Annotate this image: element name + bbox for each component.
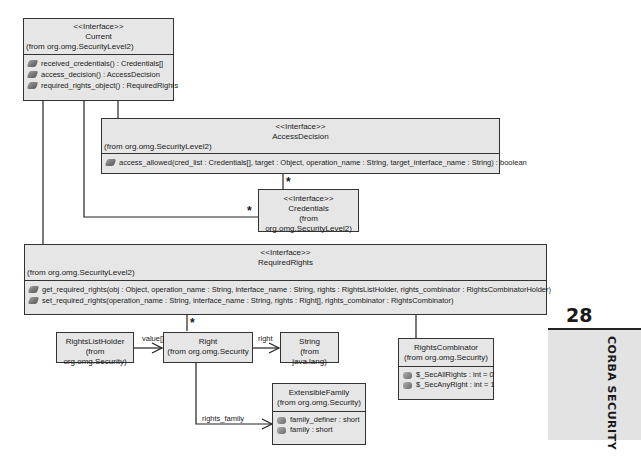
methods-compartment: access_allowed(cred_list : Credentials[]… [102, 153, 499, 171]
class-header: <<Interface>> AccessDecision (from org.o… [102, 119, 499, 153]
stereotype: <<Interface>> [261, 194, 356, 204]
attribute-row: $_SecAllRights : int = 0 [403, 370, 489, 380]
method-icon [28, 297, 40, 304]
class-credentials[interactable]: <<Interface>> Credentials (from org.omg.… [258, 189, 359, 232]
class-rightscombinator[interactable]: RightsCombinator (from org.omg.Security)… [398, 338, 494, 400]
package: (from org.omg.SecurityLevel2) [104, 142, 497, 152]
class-name: RightsCombinator [401, 343, 491, 353]
class-header: <<Interface>> RequiredRights (from org.o… [25, 245, 546, 280]
attribute-icon [403, 382, 412, 389]
class-name: RightsListHolder [59, 337, 131, 347]
attribute-icon [277, 417, 286, 424]
multiplicity-accessdecision-credentials: * [286, 176, 291, 188]
class-name: Credentials [261, 204, 356, 214]
stereotype: <<Interface>> [26, 22, 171, 32]
class-name: Right [166, 337, 250, 347]
class-name: ExtensibleFamily [275, 388, 363, 398]
chapter-tab [548, 330, 641, 440]
multiplicity-requiredrights-right: * [190, 317, 195, 329]
label-value: value[] [142, 334, 164, 343]
class-extensiblefamily[interactable]: ExtensibleFamily (from org.omg.Security)… [272, 383, 366, 445]
class-header: RightsListHolder (from org.omg.Security) [57, 333, 133, 370]
method-icon [27, 82, 39, 89]
package: (from org.omg.SecurityLevel2) [26, 42, 171, 52]
package: (from org.omg.Security [166, 347, 250, 357]
multiplicity-current-credentials: * [247, 205, 252, 217]
method-row: received_credentials() : Credentials[] [28, 58, 169, 69]
method-row: set_required_rights(operation_name : Str… [29, 295, 542, 306]
method-row: access_decision() : AccessDecision [28, 69, 169, 80]
class-name: RequiredRights [27, 258, 544, 268]
label-right: right [258, 334, 273, 343]
label-rights-family: rights_family [202, 414, 244, 423]
class-header: <<Interface>> Current (from org.omg.Secu… [24, 19, 173, 54]
class-header: RightsCombinator (from org.omg.Security) [399, 339, 493, 366]
class-right[interactable]: Right (from org.omg.Security [163, 332, 253, 363]
attribute-icon [277, 427, 286, 434]
chapter-number: 28 [566, 304, 592, 326]
stereotype: <<Interface>> [104, 122, 497, 132]
package: (from org.omg.SecurityLevel2) [27, 268, 544, 278]
chapter-divider [548, 328, 641, 330]
class-requiredrights[interactable]: <<Interface>> RequiredRights (from org.o… [24, 244, 547, 315]
attributes-compartment: family_definer : short family : short [273, 411, 365, 438]
class-accessdecision-box[interactable]: <<Interface>> AccessDecision (from org.o… [101, 118, 500, 174]
method-row: required_rights_object() : RequiredRight… [28, 80, 169, 91]
stereotype: <<Interface>> [27, 248, 544, 258]
package: (from org.omg.Security) [59, 347, 131, 367]
class-header: String (from java.lang) [281, 333, 338, 370]
class-header: <<Interface>> Credentials (from org.omg.… [259, 190, 358, 237]
method-icon [28, 286, 40, 293]
method-icon [27, 60, 39, 67]
methods-compartment: get_required_rights(obj : Object, operat… [25, 280, 546, 309]
class-name: Current [26, 32, 171, 42]
package: (from org.omg.Security) [401, 353, 491, 363]
class-name: String [283, 337, 336, 347]
method-row: get_required_rights(obj : Object, operat… [29, 284, 542, 295]
method-icon [27, 71, 39, 78]
package: (from org.omg.Security) [275, 398, 363, 408]
methods-compartment: received_credentials() : Credentials[] a… [24, 54, 173, 94]
class-rightslistholder[interactable]: RightsListHolder (from org.omg.Security) [56, 332, 134, 363]
attribute-row: family : short [277, 425, 361, 435]
chapter-title: CORBA SECURITY [605, 336, 618, 450]
class-header: Right (from org.omg.Security [164, 333, 252, 360]
method-row: access_allowed(cred_list : Credentials[]… [106, 157, 495, 168]
attribute-row: family_definer : short [277, 415, 361, 425]
attributes-compartment: $_SecAllRights : int = 0 $_SecAnyRight :… [399, 366, 493, 393]
attribute-row: $_SecAnyRight : int = 1 [403, 380, 489, 390]
package: (from org.omg.SecurityLevel2) [261, 214, 356, 234]
attribute-icon [403, 372, 412, 379]
class-string[interactable]: String (from java.lang) [280, 332, 339, 363]
class-name: AccessDecision [104, 132, 497, 142]
class-current[interactable]: <<Interface>> Current (from org.omg.Secu… [23, 18, 174, 101]
package: (from java.lang) [283, 347, 336, 367]
class-header: ExtensibleFamily (from org.omg.Security) [273, 384, 365, 411]
method-icon [105, 159, 117, 166]
